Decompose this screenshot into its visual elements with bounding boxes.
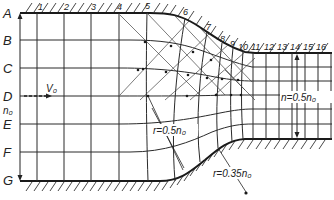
inlet-width-label: n₀ [3, 105, 13, 116]
diagonal-check-lines [120, 13, 255, 100]
column-label-16: 16 [316, 42, 326, 52]
row-label-d: D [3, 89, 12, 104]
column-label-12: 12 [264, 42, 274, 52]
row-label-f: F [3, 145, 12, 160]
column-label-13: 13 [277, 42, 287, 52]
column-label-6: 6 [183, 7, 188, 17]
column-label-10: 10 [238, 42, 248, 52]
column-label-1: 1 [38, 2, 43, 12]
velocity-label: V₀ [46, 83, 57, 94]
column-labels: 1 2 3 4 5 6 7 8 9 10 11 12 13 14 15 16 [38, 1, 326, 52]
column-label-11: 11 [251, 42, 260, 52]
column-label-4: 4 [117, 2, 122, 12]
row-label-b: B [3, 33, 12, 48]
upper-radius-annotation: r=0.5n₀ [148, 96, 198, 170]
column-label-15: 15 [303, 42, 314, 52]
column-label-8: 8 [220, 34, 225, 44]
row-label-g: G [3, 173, 13, 188]
lower-wall-hatching [26, 140, 325, 191]
upper-radius-label: r=0.5n₀ [153, 125, 186, 136]
outlet-width-label: n=0.5n₀ [281, 92, 316, 103]
column-label-2: 2 [63, 2, 69, 12]
lower-radius-label: r=0.35n₀ [213, 168, 251, 179]
row-label-e: E [3, 117, 12, 132]
column-label-3: 3 [91, 2, 96, 12]
lower-radius-annotation: r=0.35n₀ [212, 148, 268, 195]
column-label-5: 5 [145, 1, 151, 11]
column-label-7: 7 [206, 22, 212, 32]
flow-net-diagram: A B C D E F G 1 2 3 4 5 6 7 8 9 10 11 12… [0, 0, 334, 200]
row-labels: A B C D E F G [2, 6, 13, 188]
row-label-c: C [3, 61, 13, 76]
column-label-9: 9 [230, 39, 235, 49]
row-label-a: A [2, 6, 12, 21]
column-label-14: 14 [290, 42, 300, 52]
